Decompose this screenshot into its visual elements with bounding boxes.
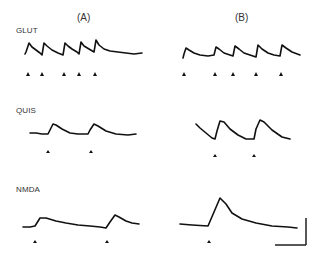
figure-traces: [0, 0, 320, 256]
scale-bar: [275, 218, 306, 245]
stim-marker-icon: [231, 72, 235, 76]
stim-marker-icon: [213, 72, 217, 76]
stim-marker-icon: [26, 72, 30, 76]
stim-marker-icon: [182, 72, 186, 76]
stim-marker-icon: [252, 154, 256, 157]
stim-marker-icon: [89, 150, 93, 153]
stim-marker-icon: [62, 72, 66, 76]
stim-marker-icon: [93, 72, 97, 76]
trace-quis-b: [196, 120, 290, 139]
trace-nmda-b: [180, 198, 297, 228]
trace-quis-a: [30, 124, 136, 135]
stim-marker-icon: [33, 240, 37, 243]
stim-marker-icon: [213, 154, 217, 157]
stim-marker-icon: [77, 72, 81, 76]
stim-marker-icon: [40, 72, 44, 76]
trace-glut-b: [183, 45, 300, 58]
stim-marker-icon: [254, 72, 258, 76]
stimulus-markers: [26, 72, 283, 243]
stim-marker-icon: [46, 150, 50, 153]
trace-glut-a: [25, 40, 142, 55]
stim-marker-icon: [279, 72, 283, 76]
trace-nmda-a: [23, 215, 139, 228]
stim-marker-icon: [207, 240, 211, 243]
stim-marker-icon: [105, 240, 109, 243]
